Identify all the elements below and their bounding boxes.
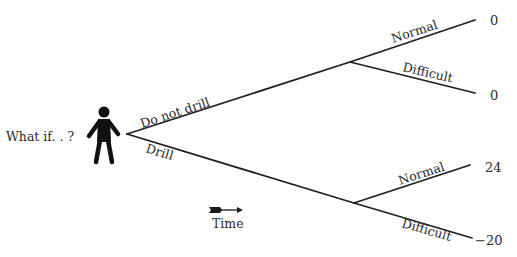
decision-tree-diagram: What if. . ? Do not drill Drill Normal D… <box>0 0 517 257</box>
outcome-label-lower-difficult: Difficult <box>400 215 453 243</box>
outcome-label-lower-normal: Normal <box>396 159 446 188</box>
time-axis-label: Time <box>212 216 244 231</box>
arrow-right-icon <box>209 207 243 213</box>
payoff-lower-difficult: −20 <box>475 233 502 248</box>
option-label-drill: Drill <box>144 141 175 164</box>
root-question-label: What if. . ? <box>6 129 74 144</box>
option-label-do-not-drill: Do not drill <box>138 94 211 131</box>
person-icon <box>89 107 118 163</box>
payoff-upper-difficult: 0 <box>490 88 498 103</box>
payoff-lower-normal: 24 <box>485 160 502 175</box>
outcome-label-upper-normal: Normal <box>389 17 439 46</box>
payoff-upper-normal: 0 <box>490 13 498 28</box>
